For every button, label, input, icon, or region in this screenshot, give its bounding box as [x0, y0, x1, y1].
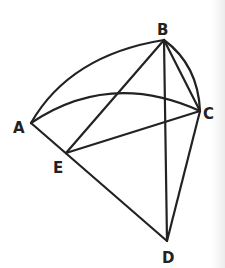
geometry-diagram: A B C D E	[0, 0, 225, 268]
label-d: D	[162, 249, 174, 267]
label-a: A	[13, 119, 25, 137]
label-b: B	[157, 21, 168, 39]
segment-c-d	[167, 111, 200, 241]
label-e: E	[53, 159, 63, 177]
segment-b-e	[66, 40, 164, 153]
segment-e-c	[66, 111, 200, 153]
segment-b-d	[164, 40, 167, 241]
segment-a-d	[31, 123, 167, 241]
page-edge-shadow	[211, 0, 225, 268]
